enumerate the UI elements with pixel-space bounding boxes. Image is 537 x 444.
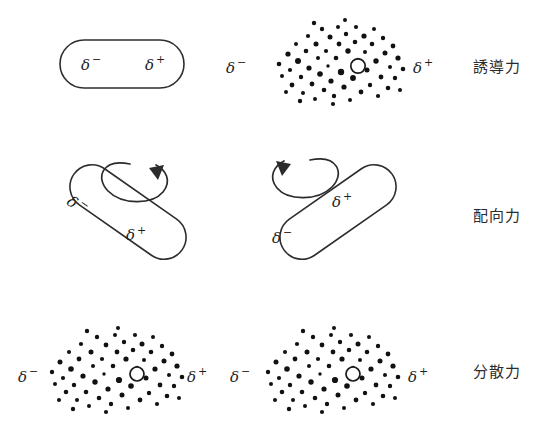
- charge-label-delta: δ: [332, 193, 341, 211]
- row-label-induction: 誘導力: [473, 55, 521, 76]
- charge-sign-negative: −: [29, 365, 38, 378]
- charge-sign-negative: −: [283, 226, 292, 239]
- row-label-dispersion: 分散力: [473, 360, 521, 381]
- charge-sign-positive: +: [137, 224, 146, 237]
- nucleus-circle: [351, 59, 365, 73]
- charge-sign-positive: +: [419, 365, 428, 378]
- charge-sign-positive: +: [343, 190, 352, 203]
- charge-label-delta: δ: [413, 59, 422, 77]
- nucleus-circle: [130, 367, 144, 381]
- charge-sign-positive: +: [156, 53, 165, 66]
- charge-sign-negative: −: [241, 365, 250, 378]
- charge-label-delta: δ: [187, 368, 196, 386]
- charge-label-delta: δ: [18, 368, 27, 386]
- charge-label-delta: δ: [230, 368, 239, 386]
- charge-sign-positive: +: [424, 56, 433, 69]
- nucleus-circle: [346, 367, 360, 381]
- charge-label-delta: δ: [81, 56, 90, 74]
- row-label-orientation: 配向力: [473, 204, 521, 225]
- charge-sign-negative: −: [237, 56, 246, 69]
- charge-sign-positive: +: [198, 365, 207, 378]
- charge-label-delta: δ: [408, 368, 417, 386]
- charge-label-delta: δ: [145, 56, 154, 74]
- charge-sign-negative: −: [92, 53, 101, 66]
- interaction-forces-figure: δ − δ + δ −: [0, 0, 537, 444]
- charge-label-delta: δ: [126, 226, 135, 244]
- charge-label-delta: δ: [226, 59, 235, 77]
- charge-label-delta: δ: [272, 229, 281, 247]
